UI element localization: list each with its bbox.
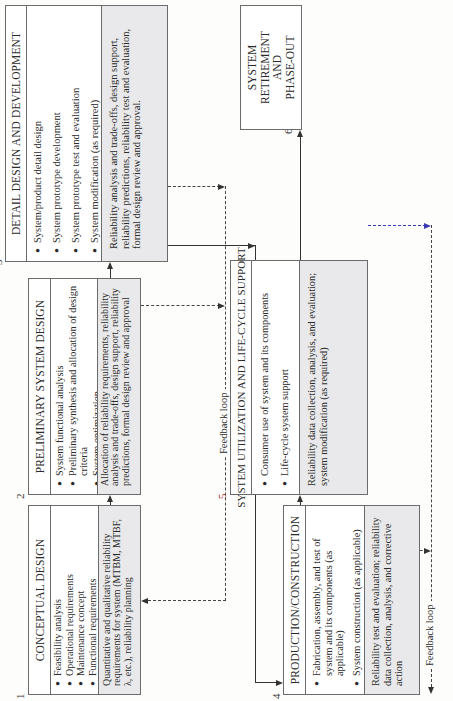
- stage-3-reliability-note: Reliability analysis and trade-offs, des…: [101, 6, 167, 261]
- feedback-to-stage-1: [148, 600, 226, 601]
- list-item: System prototype development: [51, 12, 63, 253]
- arrow-up-icon: [141, 598, 148, 604]
- stage-2-number: 2: [14, 494, 26, 500]
- arrow-down-icon: [276, 680, 283, 686]
- list-item: Maintenance concept: [76, 512, 87, 686]
- stage-1-box: CONCEPTUAL DESIGN Feasibility analysis O…: [28, 505, 141, 695]
- stage-6-title-line: PHASE-OUT: [284, 31, 297, 104]
- stage-4-title: PRODUCTION/CONSTRUCTION: [284, 506, 306, 694]
- arrow-down-icon: [248, 243, 255, 249]
- arrow-down-icon: [218, 303, 225, 309]
- stage-6-title-line: AND: [271, 31, 284, 104]
- stage-2-reliability-note: Allocation of reliability requirements, …: [97, 279, 140, 494]
- lower-feedback-label: Feedback loop: [424, 601, 435, 669]
- stage-3-number: 3: [0, 260, 4, 266]
- stage-3-activities: System/product detail design System prot…: [27, 6, 102, 261]
- connector-2-3: [110, 268, 111, 278]
- upper-feedback-label: Feedback loop: [218, 389, 229, 457]
- stage-6-title-line: SYSTEM: [246, 31, 259, 104]
- list-item: Functional requirements: [88, 512, 99, 686]
- stage-6-box: SYSTEM RETIREMENT AND PHASE-OUT: [240, 5, 302, 130]
- arrow-right-icon: [107, 262, 113, 269]
- stage-3-box: DETAIL DESIGN AND DEVELOPMENT System/pro…: [5, 5, 168, 262]
- arrow-down-icon: [218, 184, 225, 190]
- list-item: Feasibility analysis: [53, 512, 64, 686]
- list-item: System functional analysis: [54, 285, 65, 486]
- lifecycle-diagram: 1 CONCEPTUAL DESIGN Feasibility analysis…: [0, 0, 453, 701]
- arrow-down-icon: [424, 548, 431, 554]
- stage-4-box: PRODUCTION/CONSTRUCTION Fabrication, ass…: [283, 505, 420, 695]
- list-item: Life-cycle system support: [279, 267, 291, 486]
- arrow-right-icon: [107, 495, 113, 502]
- stage-4-activities: Fabrication, assembly, and test of syste…: [306, 506, 363, 694]
- arrow-right-icon: [297, 130, 303, 137]
- feedback-from-stage-3: [168, 186, 220, 187]
- stage-3-title: DETAIL DESIGN AND DEVELOPMENT: [6, 6, 27, 261]
- stage-4-number: 4: [270, 694, 282, 700]
- stage-5-activities: Consumer use of system and its component…: [252, 261, 292, 494]
- stage-5-number: 5: [216, 494, 228, 500]
- stage-2-box: PRELIMINARY SYSTEM DESIGN System functio…: [28, 278, 141, 495]
- stage-1-title: CONCEPTUAL DESIGN: [29, 506, 51, 694]
- list-item: Consumer use of system and its component…: [259, 267, 271, 486]
- stage-5-reliability-note: Reliability data collection, analysis, a…: [299, 261, 367, 494]
- list-item: System modification (as required): [89, 12, 101, 253]
- arrow-right-icon: [297, 495, 303, 502]
- connector-3-4-drop: [168, 245, 255, 246]
- stage-1-reliability-note: Quantitative and qualitative reliability…: [98, 506, 140, 694]
- feedback-from-stage-2: [141, 305, 220, 306]
- stage-5-box: SYSTEM UTILIZATION AND LIFE-CYCLE SUPPOR…: [230, 260, 368, 495]
- stage-2-title: PRELIMINARY SYSTEM DESIGN: [29, 279, 51, 494]
- connector-5-6: [300, 136, 301, 260]
- list-item: Fabrication, assembly, and test of syste…: [311, 512, 346, 686]
- stage-5-title: SYSTEM UTILIZATION AND LIFE-CYCLE SUPPOR…: [231, 261, 252, 494]
- arrow-left-icon: [428, 687, 434, 694]
- stage-1-number: 1: [14, 694, 26, 700]
- list-item: Operational requirements: [65, 512, 76, 686]
- arrow-down-icon: [424, 223, 431, 229]
- feedback-from-stage-5: [368, 225, 426, 226]
- stage-4-reliability-note: Reliability test and evaluation; reliabi…: [364, 506, 419, 694]
- list-item: System construction (as applicable): [351, 512, 363, 686]
- stage-6-title: SYSTEM RETIREMENT AND PHASE-OUT: [241, 6, 301, 129]
- stage-6-title-line: RETIREMENT: [259, 31, 272, 104]
- list-item: System prototype test and evaluation: [70, 12, 82, 253]
- list-item: Preliminary synthesis and allocation of …: [67, 285, 89, 486]
- list-item: System/product detail design: [32, 12, 44, 253]
